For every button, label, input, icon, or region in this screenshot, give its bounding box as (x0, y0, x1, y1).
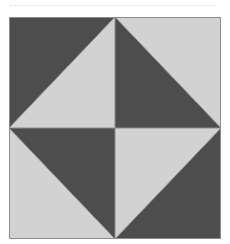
quilt-block (9, 17, 221, 239)
quilt-block-svg (9, 17, 221, 239)
figure-root (0, 0, 230, 244)
dotted-separator (10, 5, 216, 7)
